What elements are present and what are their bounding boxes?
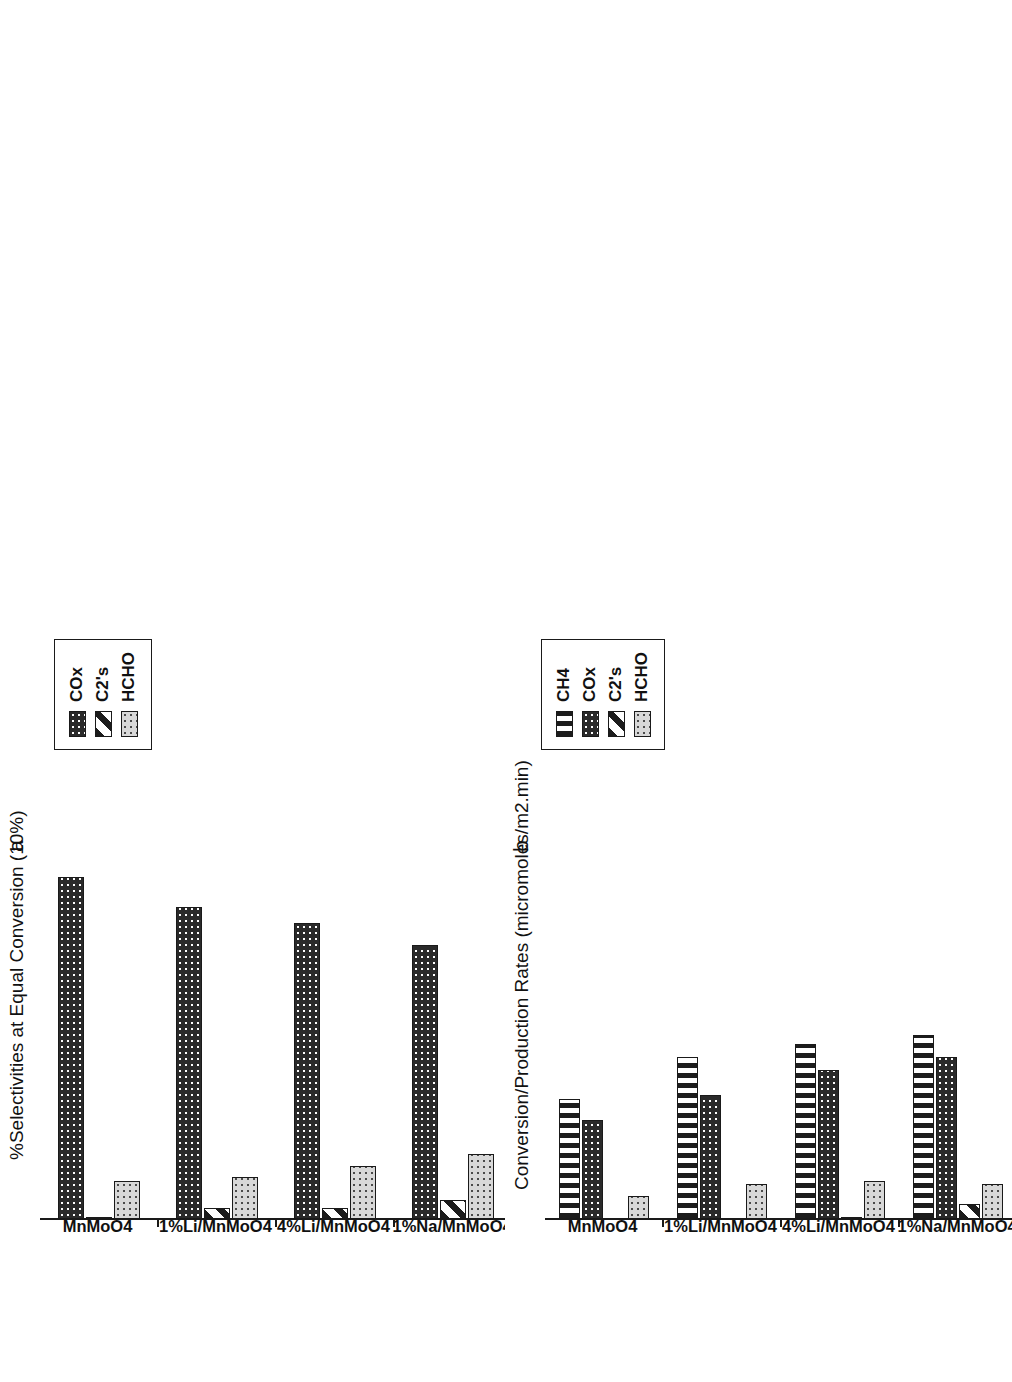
- legend-label: HCHO: [632, 652, 652, 702]
- legend-swatch-icon: [582, 711, 599, 737]
- bar-cox: [936, 1057, 957, 1219]
- legend: COxC2'sHCHO: [54, 639, 152, 750]
- bar-ch4: [559, 1099, 580, 1219]
- chart-title: Conversion/Production Rates (micromoles/…: [511, 760, 533, 1190]
- legend-label: COx: [67, 667, 87, 702]
- bar-hcho: [114, 1181, 140, 1219]
- category-label: 1%Na/MnMoO4: [898, 1217, 1012, 1236]
- category-label: 1%Na/MnMoO4: [393, 1217, 511, 1236]
- legend-label: CH4: [554, 668, 574, 702]
- legend-label: COx: [580, 667, 600, 702]
- legend-swatch-icon: [121, 711, 138, 737]
- bar-hcho: [350, 1166, 376, 1219]
- bar-cox: [412, 945, 438, 1219]
- figure-page: %Selectivities at Equal Conversion (10%)…: [0, 0, 1012, 1382]
- legend: CH4COxC2'sHCHO: [541, 639, 665, 750]
- legend-item[interactable]: CH4: [551, 652, 577, 737]
- legend-swatch-icon: [556, 711, 573, 737]
- legend-item[interactable]: HCHO: [116, 652, 142, 737]
- category-label: 1%Li/MnMoO4: [157, 1217, 275, 1236]
- legend-item[interactable]: COx: [577, 652, 603, 737]
- bar-ch4: [795, 1044, 816, 1219]
- panel-letter: b: [509, 840, 533, 852]
- panel-b-container: Conversion/Production Rates (micromoles/…: [505, 780, 1012, 1310]
- legend-label: C2's: [606, 667, 626, 702]
- bar-hcho: [864, 1181, 885, 1219]
- bar-cox: [700, 1095, 721, 1219]
- chart-title: %Selectivities at Equal Conversion (10%): [6, 810, 28, 1160]
- bar-hcho: [982, 1184, 1003, 1219]
- category-label: 4%Li/MnMoO4: [275, 1217, 393, 1236]
- category-label: MnMoO4: [39, 1217, 157, 1236]
- legend-item[interactable]: HCHO: [629, 652, 655, 737]
- legend-label: C2's: [93, 667, 113, 702]
- plot-area: 050100150200250300MnMoO41%Li/MnMoO44%Li/…: [545, 840, 1012, 1220]
- legend-swatch-icon: [69, 711, 86, 737]
- legend-swatch-icon: [608, 711, 625, 737]
- legend-item[interactable]: C2's: [603, 652, 629, 737]
- category-label: 1%Li/MnMoO4: [662, 1217, 780, 1236]
- category-label: 4%Li/MnMoO4: [780, 1217, 898, 1236]
- category-label: MnMoO4: [544, 1217, 662, 1236]
- bar-cox: [176, 907, 202, 1219]
- bar-hcho: [746, 1184, 767, 1219]
- bar-hcho: [468, 1154, 494, 1219]
- bar-ch4: [677, 1057, 698, 1219]
- bar-cox: [818, 1070, 839, 1219]
- bar-hcho: [232, 1177, 258, 1219]
- legend-swatch-icon: [95, 711, 112, 737]
- legend-item[interactable]: C2's: [90, 652, 116, 737]
- bar-ch4: [913, 1035, 934, 1219]
- legend-label: HCHO: [119, 652, 139, 702]
- legend-swatch-icon: [634, 711, 651, 737]
- panel-letter: a: [4, 840, 28, 852]
- bar-cox: [294, 923, 320, 1219]
- legend-item[interactable]: COx: [64, 652, 90, 737]
- bar-cox: [58, 877, 84, 1219]
- bar-cox: [582, 1120, 603, 1219]
- panel-b: Conversion/Production Rates (micromoles/…: [505, 780, 1012, 1310]
